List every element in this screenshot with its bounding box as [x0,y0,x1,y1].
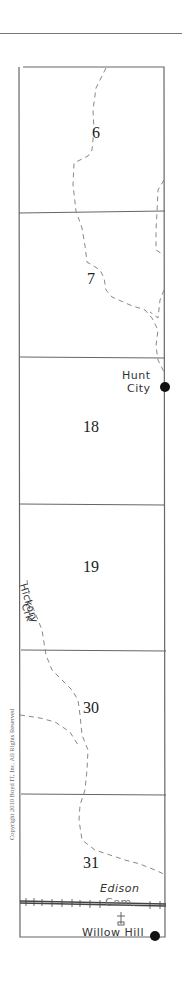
section-line-19-30 [21,650,166,651]
cemetery-cross-icon [117,912,125,925]
town-label-line1: Hunt [122,369,151,382]
stream-east-upper [156,180,164,255]
stream-east-branch [150,290,164,318]
town-dot-willow-hill [150,931,160,941]
section-grid [19,67,166,937]
section-number-6: 6 [92,124,100,142]
town-label-line2: City [122,382,151,395]
cemetery-label-line2: Cem. [105,896,136,909]
railroad [20,898,166,909]
section-line-30-31 [21,794,166,795]
town-label-hunt-city: Hunt City [122,369,151,395]
stream-hickory-creek [27,580,166,875]
stream-main [73,68,164,372]
town-dot-hunt-city [160,382,170,392]
cemetery-label-line1: Edison [100,882,139,895]
copyright-notice: Copyright 2010 Boyd IT, Inc. All Rights … [8,709,15,840]
map-frame [19,67,165,937]
section-line-7-18 [19,357,165,358]
section-line-18-19 [19,504,165,505]
map-canvas [0,0,182,982]
section-number-7: 7 [87,270,95,288]
stream-lines [20,68,166,875]
section-number-18: 18 [83,418,99,436]
town-label-willow-hill: Willow Hill [82,926,144,939]
stream-west-tributary [20,715,78,745]
section-number-19: 19 [83,558,99,576]
section-line-6-7 [19,211,165,213]
section-number-31: 31 [83,854,99,872]
section-number-30: 30 [83,699,99,717]
